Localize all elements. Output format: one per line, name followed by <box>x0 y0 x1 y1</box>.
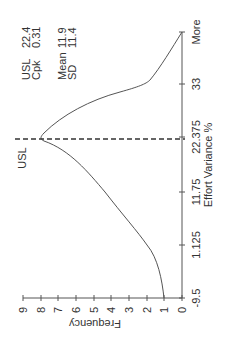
y-tick-label: 4 <box>105 307 117 313</box>
x-axis-title: Effort Variance % <box>202 122 214 207</box>
x-tick-labels: -9.5 1.125 11.75 22.375 33 More <box>190 19 202 307</box>
y-tick-label: 7 <box>52 307 64 313</box>
y-tick-label: 0 <box>176 307 188 313</box>
y-axis <box>23 295 182 301</box>
stats-annotation: USL 22.4 Cpk 0.31 Mean 11.9 SD 11.4 <box>20 27 78 80</box>
x-axis <box>179 32 185 298</box>
x-tick-label: 1.125 <box>190 231 202 259</box>
y-tick-label: 5 <box>88 307 100 313</box>
y-tick-labels: 0 1 2 3 4 5 6 7 8 9 <box>17 307 188 313</box>
y-tick-label: 8 <box>35 307 47 313</box>
effort-variance-histogram-chart: -9.5 1.125 11.75 22.375 33 More Effort V… <box>0 0 229 349</box>
y-tick-label: 9 <box>17 307 29 313</box>
y-axis-title: Frequency <box>69 318 121 330</box>
stat-value-sd: 11.4 <box>66 27 78 48</box>
y-tick-label: 1 <box>158 307 170 313</box>
y-tick-label: 6 <box>70 307 82 313</box>
y-tick-label: 3 <box>123 307 135 313</box>
stat-label-cpk: Cpk <box>30 60 42 80</box>
x-tick-label: 22.375 <box>190 120 202 154</box>
x-tick-label: More <box>190 19 202 44</box>
y-tick-label: 2 <box>141 307 153 313</box>
usl-line-label: USL <box>16 147 28 168</box>
stat-value-cpk: 0.31 <box>30 27 42 48</box>
x-tick-label: -9.5 <box>190 289 202 308</box>
stat-label-sd: SD <box>66 65 78 80</box>
x-tick-label: 33 <box>190 78 202 90</box>
x-tick-label: 11.75 <box>190 179 202 206</box>
